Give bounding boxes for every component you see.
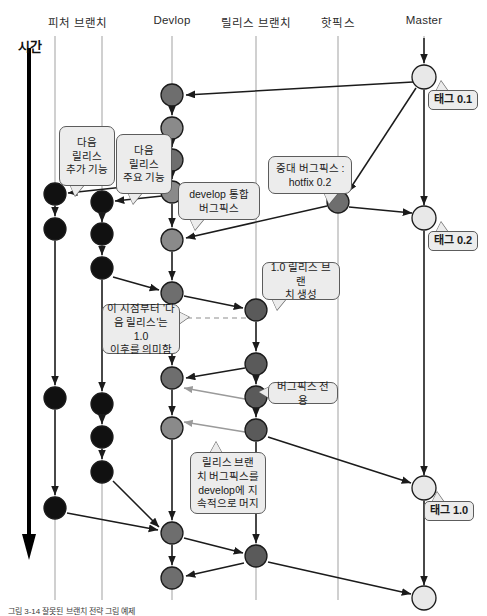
commit-node-d1[interactable]	[161, 84, 183, 106]
edge-release2-develop7	[186, 368, 245, 378]
edges-light-group	[184, 388, 245, 432]
commit-node-f1[interactable]	[44, 183, 66, 205]
figure-caption: 그림 3-14 잘못된 브랜치 전략 그림 예제	[8, 605, 135, 616]
edge-master-to-develop1	[186, 82, 413, 95]
commit-node-f2[interactable]	[44, 218, 66, 240]
lane-title-hotfix: 핫픽스	[321, 14, 355, 30]
callout-bugfix-only: 버그픽스 전용	[268, 382, 338, 404]
commit-node-m4[interactable]	[412, 586, 436, 610]
edge-release4-develop8	[184, 422, 245, 432]
commit-node-f3[interactable]	[44, 387, 66, 409]
callout-tail	[179, 312, 189, 324]
commit-node-g5[interactable]	[91, 426, 113, 448]
tag-label-0-2: 태그 0.2	[428, 231, 478, 251]
commit-node-m2[interactable]	[412, 206, 436, 230]
commit-node-g4[interactable]	[91, 393, 113, 415]
callout-next-release-extra-feature: 다음 릴리스 추가 기능	[59, 126, 115, 186]
edge-develop9-release5	[184, 538, 243, 553]
tag-label-1-0: 태그 1.0	[424, 501, 474, 521]
commit-node-g6[interactable]	[91, 461, 113, 483]
commit-node-g3[interactable]	[91, 257, 113, 279]
edge-release5-master4	[268, 562, 411, 594]
edge-develop6-release1	[184, 296, 243, 308]
edge-f4-develop9	[67, 513, 158, 530]
edge-release3-develop	[184, 388, 245, 399]
commit-node-d10[interactable]	[161, 567, 183, 589]
commit-node-g2[interactable]	[91, 223, 113, 245]
lane-title-develop: Devlop	[154, 14, 191, 26]
edge-release5-develop10	[186, 563, 244, 576]
commit-node-r4[interactable]	[245, 419, 267, 441]
commit-node-m1[interactable]	[412, 65, 436, 89]
time-axis-arrow	[22, 48, 36, 560]
commit-node-d5[interactable]	[161, 229, 183, 251]
edge-release4-master3	[268, 437, 411, 483]
callout-tail	[324, 193, 338, 204]
callout-develop-integration-bugfix: develop 통합 버그픽스	[178, 182, 260, 220]
callout-create-release-branch: 1.0 릴리스 브랜 치 생성	[262, 262, 340, 300]
commit-node-r5[interactable]	[245, 545, 267, 567]
tag-label-0-1: 태그 0.1	[428, 90, 478, 110]
commit-node-r2[interactable]	[245, 353, 267, 375]
callout-tail	[128, 193, 142, 204]
edge-g3-develop6	[113, 277, 159, 290]
callout-merge-release-bugfix-to-develop: 릴리스 브랜 치 버그픽스를 develop에 지 속적으로 머지	[190, 452, 266, 514]
callout-critical-bugfix-hotfix: 중대 버그픽스 : hotfix 0.2	[268, 156, 352, 194]
edge-g6-develop9	[113, 481, 159, 527]
lane-title-master: Master	[406, 14, 442, 26]
commit-node-d8[interactable]	[161, 417, 183, 439]
callout-next-release-main-feature: 다음 릴리스 주요 기능	[116, 134, 172, 194]
commit-node-d7[interactable]	[161, 367, 183, 389]
commit-node-f4[interactable]	[44, 497, 66, 519]
edge-hotfix-master2	[349, 207, 412, 213]
commit-node-g1[interactable]	[91, 191, 113, 213]
callout-next-release-meaning: 이 시점부터 '다 음 릴리스'는 1.0 이후를 의미함	[102, 304, 180, 354]
callout-tail	[190, 219, 204, 230]
commit-node-d6[interactable]	[161, 282, 183, 304]
lane-title-feature: 피처 브랜치	[48, 14, 107, 30]
commit-node-d9[interactable]	[161, 522, 183, 544]
callout-tail	[70, 185, 84, 196]
commit-node-r1[interactable]	[245, 299, 267, 321]
time-axis-label: 시간	[18, 36, 42, 55]
edge-master1-hotfix	[348, 88, 416, 192]
lane-title-release: 릴리스 브랜치	[221, 14, 292, 30]
